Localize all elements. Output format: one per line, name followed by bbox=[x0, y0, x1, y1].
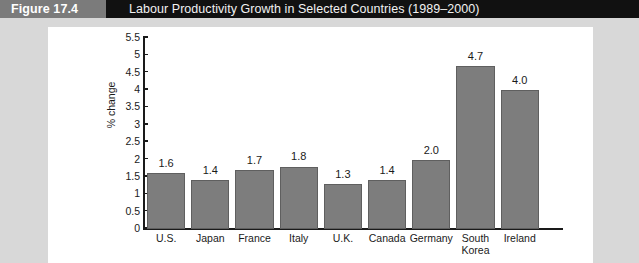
bar[interactable] bbox=[456, 66, 494, 229]
y-tick-label: 4 bbox=[110, 83, 140, 95]
y-tick-label: 1.5 bbox=[110, 170, 140, 182]
y-tick-label: 5.5 bbox=[110, 31, 140, 43]
bar-value-label: 4.0 bbox=[498, 74, 542, 86]
figure-title: Labour Productivity Growth in Selected C… bbox=[106, 0, 639, 18]
y-tick-label: 2.5 bbox=[110, 135, 140, 147]
bar-value-label: 4.7 bbox=[453, 50, 497, 62]
y-tick-label: 2 bbox=[110, 153, 140, 165]
y-tick-label: 5 bbox=[110, 48, 140, 60]
bar-group[interactable]: 4.7SouthKorea bbox=[453, 27, 497, 229]
bar-value-label: 1.4 bbox=[188, 164, 232, 176]
bar-value-label: 1.6 bbox=[144, 157, 188, 169]
y-tick-label: 3 bbox=[110, 118, 140, 130]
bar-group[interactable]: 1.3U.K. bbox=[321, 27, 365, 229]
bar[interactable] bbox=[147, 173, 185, 229]
bar-group[interactable]: 1.7France bbox=[232, 27, 276, 229]
bar-group[interactable]: 1.4Japan bbox=[188, 27, 232, 229]
bar-group[interactable]: 1.6U.S. bbox=[144, 27, 188, 229]
bar-value-label: 1.4 bbox=[365, 164, 409, 176]
bar-group[interactable]: 4.0Ireland bbox=[498, 27, 542, 229]
bar[interactable] bbox=[324, 184, 362, 229]
bar-group[interactable]: 1.8Italy bbox=[277, 27, 321, 229]
y-tick-label: 0.5 bbox=[110, 205, 140, 217]
bar-group[interactable]: 1.4Canada bbox=[365, 27, 409, 229]
bar[interactable] bbox=[235, 170, 273, 229]
bar-value-label: 1.7 bbox=[232, 154, 276, 166]
bar-value-label: 2.0 bbox=[409, 144, 453, 156]
bar[interactable] bbox=[412, 160, 450, 229]
y-tick-label: 1 bbox=[110, 187, 140, 199]
chart-panel: % change 00.511.522.533.544.555.5 1.6U.S… bbox=[48, 27, 593, 263]
bar[interactable] bbox=[501, 90, 539, 229]
figure-header-band: Figure 17.4 Labour Productivity Growth i… bbox=[0, 0, 639, 18]
y-tick-label: 0 bbox=[110, 222, 140, 234]
bar-value-label: 1.3 bbox=[321, 168, 365, 180]
bar-series: 1.6U.S.1.4Japan1.7France1.8Italy1.3U.K.1… bbox=[144, 27, 542, 229]
bar-group[interactable]: 2.0Germany bbox=[409, 27, 453, 229]
x-category-label: Ireland bbox=[492, 233, 548, 245]
bar[interactable] bbox=[368, 180, 406, 229]
bar-chart: % change 00.511.522.533.544.555.5 1.6U.S… bbox=[48, 27, 593, 263]
y-tick-label: 4.5 bbox=[110, 66, 140, 78]
bar[interactable] bbox=[191, 180, 229, 229]
figure-container: Figure 17.4 Labour Productivity Growth i… bbox=[0, 0, 639, 263]
y-tick-label: 3.5 bbox=[110, 100, 140, 112]
bar-value-label: 1.8 bbox=[277, 150, 321, 162]
bar[interactable] bbox=[280, 167, 318, 230]
figure-number-tag: Figure 17.4 bbox=[0, 0, 106, 18]
